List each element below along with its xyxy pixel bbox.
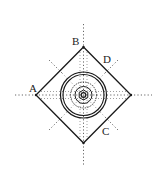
label-d: D: [103, 53, 111, 65]
label-b: B: [72, 35, 79, 47]
diagram-canvas: A B C D: [0, 0, 159, 195]
label-a: A: [29, 82, 37, 94]
label-c: C: [102, 125, 109, 137]
